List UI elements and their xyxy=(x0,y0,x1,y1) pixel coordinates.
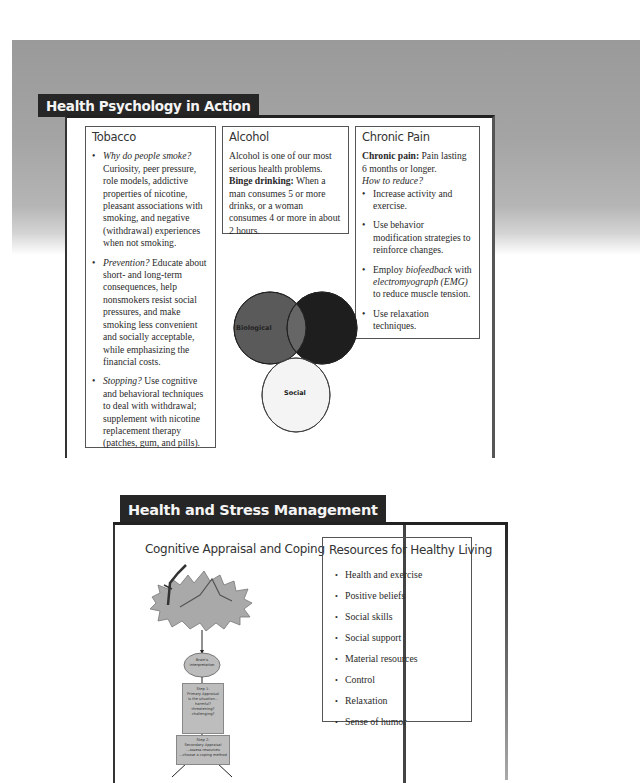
resource-item: Control xyxy=(335,670,422,691)
alcohol-heading: Alcohol xyxy=(229,131,342,143)
pain-bullet: • Use relaxation techniques. xyxy=(362,308,473,333)
resource-item: Health and exercise xyxy=(335,565,422,586)
bullet-text: with xyxy=(452,264,471,275)
bullet-text: Use behavior modification strategies to … xyxy=(373,219,473,256)
step2-secondary-appraisal-box: Step 2: Secondary Appraisal ...assess re… xyxy=(176,735,230,765)
venn-label-biological: Biological xyxy=(236,324,272,332)
bullet-text: to reduce muscle tension. xyxy=(373,288,471,299)
bullet-icon: • xyxy=(92,375,103,449)
tobacco-box: Tobacco • Why do people smoke? Curiosity… xyxy=(85,126,216,448)
alcohol-intro: Alcohol is one of our most serious healt… xyxy=(229,150,332,173)
venn-circles-icon xyxy=(226,288,376,438)
resource-item: Material resources xyxy=(335,649,422,670)
bullet-italic: biofeedback xyxy=(406,264,452,275)
bullet-icon: • xyxy=(362,188,373,213)
resource-item: Positive beliefs xyxy=(335,586,422,607)
venn-label-social: Social xyxy=(284,389,306,397)
resource-item: Social support xyxy=(335,628,422,649)
bullet-text: Use relaxation techniques. xyxy=(373,308,473,333)
stress-management-panel-right-border xyxy=(505,522,508,780)
bullet-lead: Stopping? xyxy=(103,375,142,386)
pain-bullet: • Use behavior modification strategies t… xyxy=(362,219,473,256)
cognitive-appraisal-heading: Cognitive Appraisal and Coping xyxy=(145,542,325,556)
chronic-pain-term: Chronic pain: xyxy=(362,150,419,161)
bullet-icon: • xyxy=(92,150,103,249)
panel-title-health-psychology: Health Psychology in Action xyxy=(38,94,259,117)
cognitive-appraisal-flowchart: Brain's Interpretation Step 1: Primary A… xyxy=(120,555,290,780)
bullet-icon: • xyxy=(92,257,103,369)
bullet-lead: Why do people smoke? xyxy=(103,150,191,161)
bullet-icon: • xyxy=(362,219,373,256)
tobacco-bullet-stopping: • Stopping? Use cognitive and behavioral… xyxy=(92,375,209,449)
resources-list: Health and exercise Positive beliefs Soc… xyxy=(335,565,422,733)
chronic-pain-heading: Chronic Pain xyxy=(362,131,473,143)
binge-drinking-term: Binge drinking: xyxy=(229,175,294,186)
bullet-text: Curiosity, peer pressure, role models, a… xyxy=(103,163,203,248)
tobacco-bullet-why: • Why do people smoke? Curiosity, peer p… xyxy=(92,150,209,249)
how-to-reduce-question: How to reduce? xyxy=(362,175,423,186)
tobacco-bullet-prevention: • Prevention? Educate about short- and l… xyxy=(92,257,209,369)
bullet-lead: Prevention? xyxy=(103,257,150,268)
alcohol-box: Alcohol Alcohol is one of our most serio… xyxy=(222,126,349,234)
bullet-text: Employ xyxy=(373,264,406,275)
tobacco-heading: Tobacco xyxy=(92,131,209,143)
biopsychosocial-venn-diagram: Biological Social xyxy=(226,288,376,438)
resources-heading: Resources for Healthy Living xyxy=(329,543,492,557)
step-text: challenging? xyxy=(183,712,223,717)
pain-bullet: • Employ biofeedback with electromyograp… xyxy=(362,264,473,301)
brains-interpretation-node: Brain's Interpretation xyxy=(186,658,218,668)
stress-management-panel-top-border xyxy=(113,522,508,525)
resource-item: Social skills xyxy=(335,607,422,628)
resource-item: Relaxation xyxy=(335,691,422,712)
resources-box: Resources for Healthy Living Health and … xyxy=(322,537,472,722)
panel-title-stress-management: Health and Stress Management xyxy=(120,495,386,524)
bullet-text: Increase activity and exercise. xyxy=(373,188,473,213)
chronic-pain-definition: Chronic pain: Pain lasting 6 months or l… xyxy=(362,150,473,187)
bullet-italic: electromyograph (EMG) xyxy=(373,276,468,287)
step1-primary-appraisal-box: Step 1: Primary Appraisal Is the situati… xyxy=(182,683,224,734)
pain-bullet: • Increase activity and exercise. xyxy=(362,188,473,213)
bullet-text: Educate about short- and long-term conse… xyxy=(103,257,207,367)
resource-item: Sense of humor xyxy=(335,712,422,733)
step-text: ...choose a coping method xyxy=(177,753,229,758)
alcohol-text: Alcohol is one of our most serious healt… xyxy=(229,150,342,237)
